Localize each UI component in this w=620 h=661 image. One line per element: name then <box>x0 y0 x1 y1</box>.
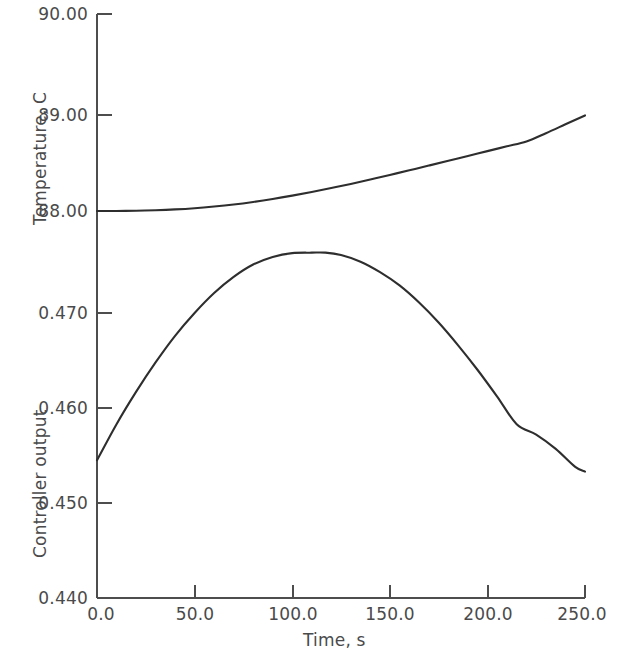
x-axis-title: Time, s <box>303 630 366 650</box>
y-tick-label-0440: 0.440 <box>0 588 88 608</box>
chart-figure: 90.00 89.00 88.00 0.470 0.460 0.450 0.44… <box>0 0 620 661</box>
lower-y-axis-title: Controller output <box>30 410 50 559</box>
temperature-curve <box>97 115 585 211</box>
x-tick-label-250: 250.0 <box>557 604 607 624</box>
plot-canvas <box>0 0 620 661</box>
x-tick-label-150: 150.0 <box>365 604 415 624</box>
y-tick-label-0470: 0.470 <box>0 303 88 323</box>
x-tick-label-50: 50.0 <box>176 604 215 624</box>
x-tick-label-200: 200.0 <box>463 604 513 624</box>
y-tick-label-90: 90.00 <box>0 4 88 24</box>
upper-y-axis-title: Temperature, C <box>30 92 50 225</box>
controller-output-curve <box>97 252 585 471</box>
x-tick-label-0: 0.0 <box>87 604 115 624</box>
x-tick-label-100: 100.0 <box>268 604 318 624</box>
